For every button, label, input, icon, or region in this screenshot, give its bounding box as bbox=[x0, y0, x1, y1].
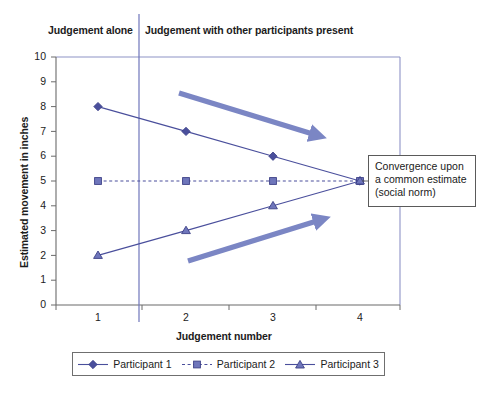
legend-label-participant-1: Participant 1 bbox=[113, 358, 171, 370]
y-axis-ticks bbox=[51, 57, 56, 305]
legend-item-participant-3[interactable]: Participant 3 bbox=[285, 358, 378, 370]
legend-item-participant-2[interactable]: Participant 2 bbox=[182, 358, 275, 370]
trend-arrow-down-right bbox=[179, 93, 316, 135]
square-marker-icon bbox=[182, 359, 212, 370]
convergence-annotation: Convergence upon a common estimate (soci… bbox=[368, 155, 476, 207]
legend-label-participant-2: Participant 2 bbox=[217, 358, 275, 370]
diamond-marker bbox=[269, 152, 277, 160]
diamond-marker bbox=[182, 127, 190, 135]
annotation-line-3: (social norm) bbox=[375, 186, 470, 199]
trend-arrow-up-right bbox=[188, 220, 320, 261]
x-axis-ticks bbox=[56, 305, 400, 310]
square-marker bbox=[183, 178, 190, 185]
diamond-marker bbox=[94, 102, 102, 110]
annotation-line-2: a common estimate bbox=[375, 173, 470, 186]
legend-label-participant-3: Participant 3 bbox=[320, 358, 378, 370]
chart-figure: Judgement alone Judgement with other par… bbox=[0, 0, 489, 394]
diamond-marker-icon bbox=[78, 359, 108, 370]
square-marker bbox=[270, 178, 277, 185]
series-participant-1 bbox=[94, 102, 364, 185]
series-participant-2 bbox=[95, 178, 364, 185]
square-marker bbox=[95, 178, 102, 185]
chart-legend: Participant 1 Participant 2 Participant … bbox=[72, 352, 385, 376]
annotation-line-1: Convergence upon bbox=[375, 160, 470, 173]
triangle-marker-icon bbox=[285, 359, 315, 370]
legend-item-participant-1[interactable]: Participant 1 bbox=[78, 358, 171, 370]
